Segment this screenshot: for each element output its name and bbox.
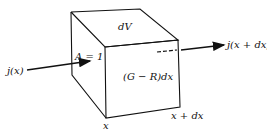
- flux-in-arrow: [27, 61, 90, 70]
- label-position-x: x: [103, 120, 109, 131]
- label-generation: (G − R)dx: [123, 71, 173, 82]
- hidden-flux-dashed: [157, 50, 177, 52]
- label-flux-out: j(x + dx): [225, 39, 267, 50]
- label-flux-in: j(x): [5, 65, 24, 76]
- cube-left-face-edge: [71, 12, 106, 118]
- flux-out-arrow: [181, 45, 224, 50]
- label-position-x-plus-dx: x + dx: [171, 110, 204, 121]
- label-area: A = 1: [74, 51, 103, 62]
- diagram-svg: dV A = 1 j(x) j(x + dx) (G − R)dx x x + …: [0, 0, 267, 132]
- label-volume: dV: [118, 21, 133, 32]
- volume-element-diagram: dV A = 1 j(x) j(x + dx) (G − R)dx x x + …: [0, 0, 267, 132]
